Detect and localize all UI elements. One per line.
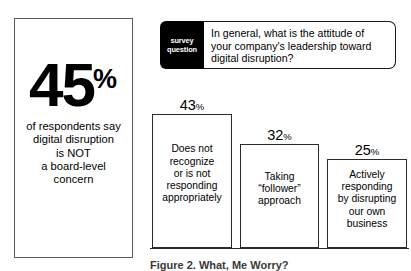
bar-chart: 43% Does not recognize or is not respond… [146, 92, 409, 252]
chart-baseline-axis [150, 248, 409, 249]
bar-label-line: by disrupting [338, 193, 396, 205]
bar-value-label-2: 32% [240, 127, 319, 143]
stat-percent-symbol: % [93, 64, 117, 94]
bar-label-line: “follower” [258, 183, 301, 195]
stat-number: 45 [29, 50, 94, 119]
bar-label-line: business [338, 218, 396, 230]
survey-question-text: In general, what is the attitude of your… [204, 21, 396, 69]
bar-value-1: 43 [180, 97, 196, 113]
stat-headline: 45% [15, 57, 132, 113]
bar-percent-2: % [283, 131, 291, 142]
question-line: digital disruption? [211, 52, 388, 65]
stat-caption-line: a board-level [15, 160, 132, 173]
survey-question-callout: survey question In general, what is the … [160, 21, 396, 69]
survey-tag-line: question [167, 45, 197, 54]
bar-group-3: 25% Actively responding by disrupting ou… [327, 159, 407, 248]
bar-percent-3: % [371, 146, 379, 157]
stat-panel: 45% of respondents say digital disruptio… [14, 18, 133, 258]
bar-label-line: our own [338, 206, 396, 218]
stat-caption-line: of respondents say [15, 120, 132, 133]
bar-value-2: 32 [267, 127, 283, 143]
bar-label-line: responding [338, 181, 396, 193]
question-line: In general, what is the attitude of [211, 27, 388, 40]
bar-label-line: recognize [162, 156, 222, 168]
bar-label-line: or is not [162, 168, 222, 180]
bar-label-line: Taking [258, 171, 301, 183]
bar-group-2: 32% Taking “follower” approach [240, 144, 319, 248]
bar-rect-3: Actively responding by disrupting our ow… [327, 159, 407, 248]
stat-caption-line: digital disruption [15, 133, 132, 146]
bar-category-label-2: Taking “follower” approach [256, 171, 303, 208]
bar-label-line: Actively [338, 169, 396, 181]
stat-panel-content: 45% of respondents say digital disruptio… [15, 57, 132, 187]
bar-rect-2: Taking “follower” approach [240, 144, 319, 248]
figure-caption: Figure 2. What, Me Worry? [150, 259, 289, 271]
bar-category-label-3: Actively responding by disrupting our ow… [336, 169, 398, 230]
bar-label-line: responding [162, 180, 222, 192]
bar-value-3: 25 [355, 142, 371, 158]
stat-caption-line: is NOT [15, 147, 132, 160]
survey-question-tag: survey question [160, 21, 204, 69]
bar-label-line: approach [258, 195, 301, 207]
survey-tag-line: survey [170, 36, 193, 45]
stat-caption: of respondents say digital disruption is… [15, 120, 132, 187]
bar-category-label-1: Does not recognize or is not responding … [160, 143, 224, 204]
bar-value-label-1: 43% [152, 97, 232, 113]
bar-rect-1: Does not recognize or is not responding … [152, 114, 232, 248]
bar-label-line: Does not [162, 143, 222, 155]
question-line: your company's leadership toward [211, 40, 388, 53]
stat-caption-line: concern [15, 173, 132, 186]
bar-label-line: appropriately [162, 192, 222, 204]
bar-value-label-3: 25% [327, 142, 407, 158]
bar-percent-1: % [196, 101, 204, 112]
bar-group-1: 43% Does not recognize or is not respond… [152, 114, 232, 248]
